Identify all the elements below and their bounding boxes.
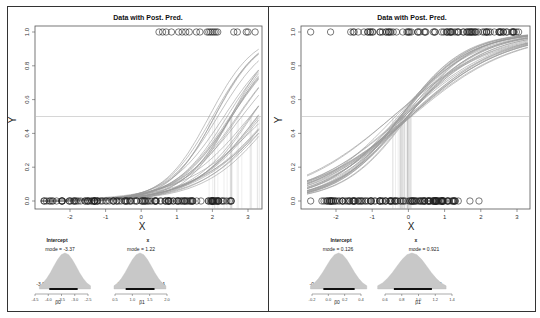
right-panel: Data with Post. Pred. -2-101230.00.20.40… — [273, 14, 530, 305]
left-panel: Data with Post. Pred. -2-101230.00.20.40… — [7, 14, 275, 305]
posterior-curve — [307, 43, 528, 181]
posterior-curve — [42, 76, 259, 201]
y-tick-label: 0.2 — [24, 162, 30, 171]
x-tick-label: 1 — [443, 214, 447, 220]
x-tick-label: -2 — [67, 214, 73, 220]
x-tick-label: 3 — [246, 214, 250, 220]
left-x-axis-label: X — [139, 221, 146, 232]
data-point — [307, 29, 313, 35]
data-point — [198, 198, 204, 204]
posterior-tick-label: -4.0 — [45, 297, 53, 302]
data-point — [159, 29, 165, 35]
posterior-curve — [42, 133, 259, 200]
posterior-curve — [307, 43, 528, 185]
posterior-curve — [307, 40, 528, 189]
posterior-curve — [307, 44, 528, 181]
left-plot-title: Data with Post. Pred. — [113, 14, 183, 21]
data-point — [179, 29, 185, 35]
data-point — [327, 29, 333, 35]
x-tick-label: 2 — [479, 214, 483, 220]
y-tick-label: 0.0 — [24, 196, 30, 205]
right-intercept-mode: mode = 0.126 — [323, 246, 354, 252]
y-tick-label: 0.4 — [24, 129, 30, 138]
posterior-tick-label: 0.4 — [358, 297, 364, 302]
posterior-curve — [307, 44, 528, 183]
right-plot-area: -2-101230.00.20.40.60.81.0 — [290, 27, 530, 220]
data-point — [231, 29, 237, 35]
posterior-curve — [42, 115, 259, 200]
x-tick-label: 0 — [140, 214, 144, 220]
posterior-curve — [42, 70, 259, 201]
posterior-tick-label: -3.5 — [58, 297, 66, 302]
figure-canvas: Data with Post. Pred. -2-101230.00.20.40… — [0, 0, 540, 318]
right-intercept-symbol: β0 — [334, 299, 340, 305]
posterior-curve — [307, 38, 528, 191]
x-tick-label: 2 — [211, 214, 215, 220]
left-slope-symbol: β1 — [139, 299, 145, 305]
posterior-tick-label: -4.5 — [32, 297, 40, 302]
data-point — [431, 29, 437, 35]
right-y-axis-label: Y — [273, 116, 284, 123]
posterior-curve — [42, 54, 259, 201]
left-plot-area: -2-101230.00.20.40.60.81.0 — [24, 27, 275, 220]
left-intercept-posterior: Intercept mode = -3.37 95% HDI -3.96 -2.… — [32, 237, 93, 305]
y-tick-label: 0.8 — [24, 61, 30, 70]
posterior-tick-label: 0.2 — [342, 297, 348, 302]
x-tick-label: -2 — [333, 214, 339, 220]
posterior-tick-label: 1.2 — [432, 297, 438, 302]
data-point — [476, 198, 482, 204]
posterior-tick-label: 1.4 — [449, 297, 455, 302]
posterior-tick-label: -0.2 — [309, 297, 317, 302]
posterior-curve — [307, 45, 528, 182]
posterior-histogram — [39, 253, 90, 289]
posterior-curve — [307, 45, 528, 184]
data-point — [183, 29, 189, 35]
posterior-curve — [307, 45, 528, 183]
y-tick-label: 0.8 — [290, 61, 296, 70]
data-point — [480, 29, 486, 35]
posterior-curve — [42, 106, 259, 201]
posterior-curve — [42, 54, 259, 201]
data-point — [355, 29, 361, 35]
posterior-curve — [42, 106, 259, 201]
posterior-curve — [42, 79, 259, 201]
posterior-curve — [307, 43, 528, 175]
posterior-curve — [42, 95, 259, 200]
posterior-curve — [307, 42, 528, 176]
left-intercept-mode: mode = -3.37 — [45, 246, 75, 252]
posterior-tick-label: 2.0 — [164, 297, 170, 302]
left-plot-box — [35, 26, 262, 209]
data-point — [234, 29, 240, 35]
posterior-tick-label: 0.6 — [382, 297, 388, 302]
x-tick-label: -1 — [103, 214, 109, 220]
x-tick-label: 0 — [407, 214, 411, 220]
data-point — [243, 29, 249, 35]
posterior-tick-label: 1.0 — [416, 297, 422, 302]
posterior-tick-label: 0.5 — [112, 297, 118, 302]
data-point — [228, 198, 234, 204]
right-slope-mode: mode = 0.921 — [409, 246, 440, 252]
y-tick-label: 0.6 — [24, 95, 30, 104]
posterior-tick-label: -3.0 — [71, 297, 79, 302]
y-tick-label: 0.6 — [290, 95, 296, 104]
x-tick-label: 3 — [515, 214, 519, 220]
data-point — [415, 29, 421, 35]
posterior-curve — [42, 133, 259, 200]
y-tick-label: 0.2 — [290, 162, 296, 171]
posterior-tick-label: 0.8 — [399, 297, 405, 302]
left-slope-title: x — [147, 237, 150, 243]
data-point — [186, 29, 192, 35]
x-tick-label: 1 — [175, 214, 179, 220]
posterior-curve — [42, 70, 259, 201]
left-intercept-title: Intercept — [46, 237, 67, 243]
data-point — [307, 198, 313, 204]
posterior-curve — [42, 74, 259, 201]
posterior-curve — [307, 48, 528, 182]
right-intercept-posterior: Intercept mode = 0.126 95% HDI -0.0607 0… — [309, 237, 367, 305]
posterior-tick-label: 1.0 — [130, 297, 136, 302]
y-tick-label: 1.0 — [290, 27, 296, 36]
right-slope-posterior: x mode = 0.921 95% HDI 0.706 1.16 β1 0.6… — [378, 237, 456, 305]
data-point — [156, 29, 162, 35]
data-point — [175, 29, 181, 35]
x-tick-label: -1 — [370, 214, 376, 220]
